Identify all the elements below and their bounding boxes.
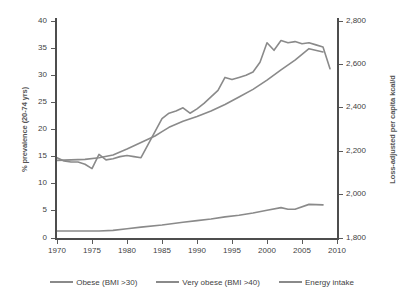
x-axis-tick-label: 2005: [285, 246, 319, 255]
y-axis-right-tick-label: 2,000: [346, 189, 380, 198]
legend-label-very-obese: Very obese (BMI >40): [182, 278, 260, 287]
y-axis-right-tick-label: 2,200: [346, 146, 380, 155]
series-line: [57, 204, 323, 231]
y-axis-left-tick-mark: [51, 21, 55, 22]
plot-area: [0, 0, 404, 300]
x-axis-tick-mark: [162, 240, 163, 244]
y-axis-left-tick-label: 25: [25, 97, 47, 106]
y-axis-left-tick-mark: [51, 183, 55, 184]
y-axis-right-tick-mark: [339, 194, 343, 195]
x-axis-tick-mark: [267, 240, 268, 244]
x-axis-tick-mark: [302, 240, 303, 244]
x-axis-tick-label: 2000: [250, 246, 284, 255]
legend-label-energy-intake: Energy intake: [305, 278, 354, 287]
y-axis-left-tick-label: 10: [25, 178, 47, 187]
y-axis-left-tick-label: 15: [25, 151, 47, 160]
x-axis-tick-mark: [337, 240, 338, 244]
legend-swatch-obese: [50, 281, 73, 283]
x-axis-tick-mark: [197, 240, 198, 244]
y-axis-left-tick-mark: [51, 210, 55, 211]
series-line: [57, 49, 323, 161]
x-axis-tick-label: 2010: [320, 246, 354, 255]
y-axis-right-tick-mark: [339, 151, 343, 152]
chart-figure: % prevalence (20-74 yrs) Loss-adjusted p…: [0, 0, 404, 300]
legend-label-obese: Obese (BMI >30): [76, 278, 137, 287]
y-axis-left-tick-label: 20: [25, 124, 47, 133]
y-axis-left-tick-label: 30: [25, 70, 47, 79]
x-axis-tick-label: 1970: [40, 246, 74, 255]
legend-item-energy-intake: Energy intake: [279, 278, 354, 287]
chart-legend: Obese (BMI >30) Very obese (BMI >40) Ene…: [0, 271, 404, 293]
y-axis-right-tick-label: 2,400: [346, 102, 380, 111]
legend-item-very-obese: Very obese (BMI >40): [156, 278, 260, 287]
y-axis-right-tick-label: 1,800: [346, 233, 380, 242]
x-axis-tick-label: 1995: [215, 246, 249, 255]
y-axis-left-tick-mark: [51, 48, 55, 49]
legend-swatch-energy-intake: [279, 281, 302, 283]
y-axis-left-spine: [55, 18, 57, 240]
x-axis-tick-label: 1975: [75, 246, 109, 255]
y-axis-left-tick-mark: [51, 129, 55, 130]
y-axis-left-tick-label: 35: [25, 43, 47, 52]
y-axis-left-tick-mark: [51, 75, 55, 76]
legend-item-obese: Obese (BMI >30): [50, 278, 137, 287]
x-axis-tick-label: 1980: [110, 246, 144, 255]
x-axis-tick-mark: [127, 240, 128, 244]
legend-swatch-very-obese: [156, 281, 179, 283]
y-axis-left-tick-label: 0: [25, 233, 47, 242]
x-axis-tick-label: 1985: [145, 246, 179, 255]
y-axis-right-spine: [337, 18, 339, 240]
y-axis-left-tick-mark: [51, 156, 55, 157]
y-axis-right-tick-mark: [339, 21, 343, 22]
y-axis-right-tick-mark: [339, 107, 343, 108]
y-axis-left-tick-mark: [51, 238, 55, 239]
y-axis-right-tick-label: 2,800: [346, 16, 380, 25]
x-axis-tick-label: 1990: [180, 246, 214, 255]
series-line: [57, 41, 330, 169]
x-axis-tick-mark: [232, 240, 233, 244]
y-axis-left-tick-label: 40: [25, 16, 47, 25]
x-axis-tick-mark: [92, 240, 93, 244]
y-axis-right-tick-mark: [339, 64, 343, 65]
y-axis-left-tick-mark: [51, 102, 55, 103]
y-axis-right-tick-label: 2,600: [346, 59, 380, 68]
x-axis-tick-mark: [57, 240, 58, 244]
y-axis-left-tick-label: 5: [25, 205, 47, 214]
y-axis-right-tick-mark: [339, 238, 343, 239]
